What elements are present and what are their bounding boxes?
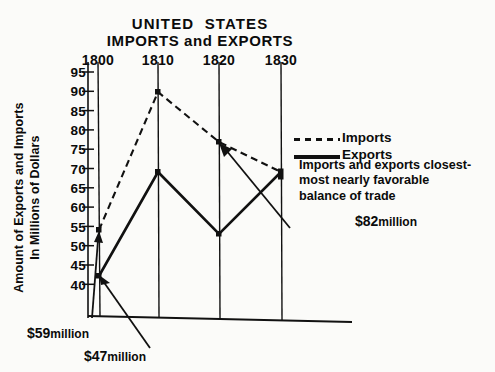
series-line-exports <box>99 172 281 276</box>
gridline-1800 <box>98 62 100 317</box>
chart-container: UNITED STATES IMPORTS and EXPORTS 1800 1… <box>0 0 495 372</box>
gridline-1820 <box>219 62 220 319</box>
gridline-1810 <box>158 62 159 318</box>
callout-47-amount: $47 <box>84 348 107 364</box>
gridline-1830 <box>281 62 282 320</box>
point-imports-1810 <box>155 89 161 95</box>
callout-82-amount: $82 <box>355 213 378 229</box>
callout-59-unit: million <box>50 327 89 341</box>
legend-item-imports: Imports <box>294 130 474 147</box>
legend-swatch-imports-icon <box>294 138 340 141</box>
point-imports-1820 <box>216 139 222 145</box>
series-line-imports <box>99 92 281 230</box>
leader-line-47-million <box>99 275 150 348</box>
legend-label-imports: Imports <box>342 130 392 145</box>
annotation-balance-of-trade: Imports and exports closest- most nearly… <box>299 158 491 204</box>
annotation-line-2: most nearly favorable <box>299 173 429 187</box>
callout-82-unit: million <box>378 215 417 229</box>
point-exports-1820 <box>216 231 222 237</box>
annotation-line-3: balance of trade <box>299 189 396 203</box>
leader-line-82-million <box>219 143 290 228</box>
point-imports-1830 <box>278 169 284 175</box>
callout-59-million: $59million <box>27 325 89 341</box>
point-exports-1830 <box>278 174 284 180</box>
callout-59-amount: $59 <box>27 325 50 341</box>
callout-47-unit: million <box>107 350 146 364</box>
point-exports-1810 <box>155 169 161 175</box>
callout-47-million: $47million <box>84 348 146 364</box>
annotation-line-1: Imports and exports closest- <box>299 158 471 172</box>
callout-82-million: $82million <box>355 213 417 229</box>
